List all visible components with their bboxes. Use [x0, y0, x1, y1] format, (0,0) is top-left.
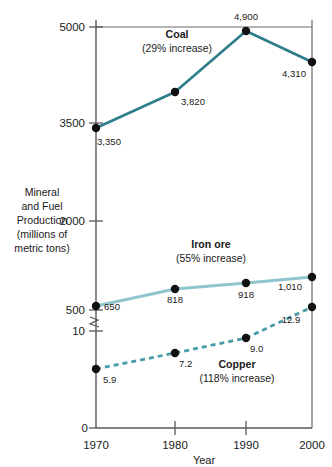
x-tick-label-1980: 1980	[162, 439, 188, 451]
y-tick-label-3500: 3500	[59, 117, 85, 129]
data-label-iron-ore-1970: 650	[104, 301, 120, 312]
annotation-sub-copper: (118% increase)	[200, 373, 275, 384]
data-label-copper-1970: 5.9	[103, 374, 116, 385]
data-point-copper-1990	[242, 334, 250, 342]
data-label-iron-ore-2000: 1,010	[278, 281, 302, 292]
data-label-iron-ore-1980: 818	[167, 294, 183, 305]
axis-break-mark	[90, 317, 99, 327]
annotation-sub-coal: (29% increase)	[142, 43, 212, 54]
y-axis-title-line-5: metric tons)	[14, 242, 69, 254]
data-point-copper-1980	[171, 349, 179, 357]
data-label-coal-1990: 4,900	[234, 11, 258, 22]
data-label-copper-2000: 12.9	[282, 314, 301, 325]
data-point-iron-ore-1990	[242, 279, 250, 287]
data-point-copper-1970	[92, 365, 100, 373]
data-label-copper-1980: 7.2	[179, 358, 192, 369]
line-chart: 5000 3500 2000 500 10 0 1970 1980 1990 2…	[0, 0, 332, 467]
y-tick-label-5000: 5000	[59, 21, 85, 33]
data-label-coal-1980: 3,820	[181, 96, 205, 107]
data-point-coal-1970	[92, 124, 100, 132]
y-axis-title-line-3: Production	[17, 214, 68, 226]
y-tick-label-0: 0	[82, 422, 88, 434]
x-tick-label-2000: 2000	[299, 439, 325, 451]
annotation-sub-iron-ore: (55% increase)	[176, 253, 246, 264]
data-point-copper-2000	[308, 303, 316, 311]
x-axis-title: Year	[193, 454, 216, 466]
annotation-title-iron-ore: Iron ore	[191, 238, 231, 250]
data-point-iron-ore-2000	[308, 273, 316, 281]
series-line-copper	[96, 307, 312, 369]
y-axis-title-line-4: (millions of	[17, 228, 68, 240]
annotation-title-coal: Coal	[166, 28, 189, 40]
data-label-coal-2000: 4,310	[282, 68, 306, 79]
data-point-coal-1980	[171, 88, 179, 96]
data-point-iron-ore-1980	[171, 285, 179, 293]
data-label-iron-ore-1990: 918	[238, 289, 254, 300]
data-point-coal-2000	[308, 58, 316, 66]
data-label-copper-1990: 9.0	[250, 343, 263, 354]
x-tick-label-1990: 1990	[233, 439, 259, 451]
x-tick-label-1970: 1970	[83, 439, 109, 451]
y-tick-label-500: 500	[66, 304, 85, 316]
y-tick-label-10: 10	[72, 325, 85, 337]
y-axis-title-line-1: Mineral	[25, 186, 60, 198]
data-point-coal-1990	[242, 27, 250, 35]
annotation-title-copper: Copper	[218, 358, 255, 370]
chart-container: 5000 3500 2000 500 10 0 1970 1980 1990 2…	[0, 0, 332, 467]
data-label-coal-1970: 3,350	[97, 136, 121, 147]
data-point-iron-ore-1970	[92, 302, 100, 310]
y-axis-title-line-2: and Fuel	[21, 200, 62, 212]
